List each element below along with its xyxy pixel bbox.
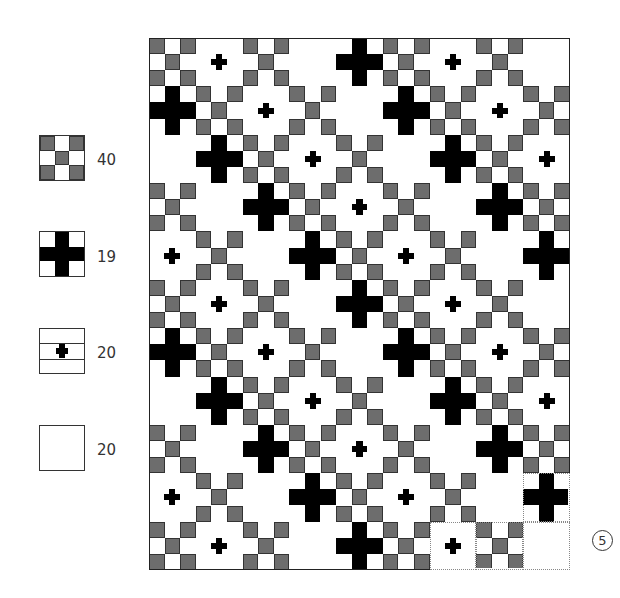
quilt-block-nine-patch [383, 183, 430, 231]
quilt-block-small-cross [383, 473, 430, 521]
gray-square [40, 136, 55, 151]
gray-square [414, 280, 430, 296]
small-cross-horizontal [211, 301, 227, 307]
gray-square [289, 119, 305, 135]
cross-horizontal-bar [383, 344, 430, 360]
gray-square [321, 183, 337, 199]
quilt-block-plain [289, 38, 336, 86]
gray-square [40, 165, 55, 180]
gray-square [196, 119, 212, 135]
quilt-block-nine-patch [196, 231, 243, 279]
quilt-block-small-cross [523, 377, 570, 425]
quilt-block-big-cross [149, 328, 196, 376]
gray-square [336, 506, 352, 522]
gray-square [336, 264, 352, 280]
gray-square [180, 312, 196, 328]
small-cross-horizontal [211, 543, 227, 549]
quilt-block-plain [430, 425, 477, 473]
quilt-block-nine-patch [523, 183, 570, 231]
small-cross-horizontal [352, 204, 368, 210]
gray-square [196, 473, 212, 489]
cross-horizontal-bar [149, 344, 196, 360]
gray-square [227, 473, 243, 489]
quilt-block-nine-patch [196, 86, 243, 134]
quilt-layout-diagram [149, 38, 570, 570]
quilt-block-nine-patch [523, 86, 570, 134]
cross-horizontal-bar [40, 247, 84, 262]
quilt-block-small-cross [289, 377, 336, 425]
gray-square [523, 360, 539, 376]
gray-square [492, 393, 508, 409]
gray-square [243, 554, 259, 570]
gray-square [476, 280, 492, 296]
quilt-block-small-cross [149, 231, 196, 279]
gray-square [258, 296, 274, 312]
quilt-block-plain [289, 280, 336, 328]
gray-square [274, 312, 290, 328]
gray-square [476, 135, 492, 151]
gray-square [180, 183, 196, 199]
quilt-block-nine-patch [149, 425, 196, 473]
cross-horizontal-bar [149, 102, 196, 118]
gray-square [383, 38, 399, 54]
gray-square [289, 360, 305, 376]
quilt-block-big-cross [430, 135, 477, 183]
gray-square [430, 506, 446, 522]
cross-horizontal-bar [289, 248, 336, 264]
gray-square [476, 312, 492, 328]
gray-square [508, 70, 524, 86]
gray-square [211, 102, 227, 118]
gray-square [383, 425, 399, 441]
gray-square [227, 264, 243, 280]
gray-square [274, 409, 290, 425]
gray-square [321, 86, 337, 102]
quilt-block-plain [149, 377, 196, 425]
quilt-block-plain [243, 231, 290, 279]
gray-square [554, 86, 570, 102]
gray-square [243, 522, 259, 538]
gray-square [430, 328, 446, 344]
gray-square [321, 328, 337, 344]
dashed-edge [569, 473, 570, 521]
quilt-block-small-cross [430, 280, 477, 328]
gray-square [352, 248, 368, 264]
dashed-block-outline [430, 522, 477, 570]
gray-square [149, 457, 165, 473]
gray-square [430, 360, 446, 376]
quilt-block-nine-patch [430, 86, 477, 134]
quilt-block-small-cross [196, 280, 243, 328]
gray-square [180, 280, 196, 296]
quilt-block-nine-patch [476, 280, 523, 328]
quilt-block-nine-patch [336, 135, 383, 183]
gray-square [508, 135, 524, 151]
gray-square [554, 215, 570, 231]
gray-square [243, 312, 259, 328]
gray-square [383, 554, 399, 570]
gray-square [196, 360, 212, 376]
gray-square [508, 312, 524, 328]
gray-square [554, 119, 570, 135]
dashed-block-outline [523, 522, 570, 570]
gray-square [227, 506, 243, 522]
gray-square [430, 231, 446, 247]
small-cross-horizontal [445, 59, 461, 65]
quilt-block-small-cross [196, 522, 243, 570]
gray-square [554, 360, 570, 376]
small-cross-horizontal [539, 156, 555, 162]
gray-square [352, 151, 368, 167]
gray-square [243, 167, 259, 183]
gray-square [383, 183, 399, 199]
gray-square [336, 231, 352, 247]
quilt-block-big-cross [476, 425, 523, 473]
quilt-block-nine-patch [523, 425, 570, 473]
gray-square [289, 457, 305, 473]
cross-horizontal-bar [243, 199, 290, 215]
cross-horizontal-bar [476, 199, 523, 215]
small-cross-horizontal [258, 349, 274, 355]
gray-square [149, 280, 165, 296]
gray-square [321, 360, 337, 376]
quilt-block-nine-patch [476, 377, 523, 425]
gray-square [180, 457, 196, 473]
gray-square [165, 54, 181, 70]
gray-square [243, 135, 259, 151]
